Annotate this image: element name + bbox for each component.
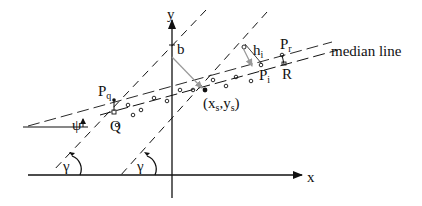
Pq-label: Pq (98, 83, 111, 101)
centroid-close: ) (235, 95, 240, 112)
centroid-point (203, 88, 208, 93)
hi-label: hi (253, 42, 264, 60)
centroid-label: (xs,ys) (203, 95, 240, 113)
R-label: R (282, 66, 292, 82)
Pr-label: Pr (280, 36, 292, 54)
intercept-perpendicular (172, 57, 202, 88)
Pq-main: P (98, 83, 106, 99)
gamma-arrowhead-right (144, 152, 150, 156)
gamma-label-right: γ (136, 158, 144, 174)
Pi-sub: i (267, 74, 270, 85)
centroid-y: ,y (219, 95, 231, 111)
Pr-sub: r (288, 43, 292, 54)
b-label: b (177, 41, 185, 57)
gamma-arc-left (72, 156, 81, 175)
Pi-main: P (259, 67, 267, 83)
median-line-diagram: x y b ψ γ γ (xs,ys) (0, 0, 422, 206)
Pi-label: Pi (259, 67, 270, 85)
y-axis-label: y (167, 6, 175, 22)
median-line-label: median line (331, 43, 402, 59)
x-axis-label: x (307, 169, 315, 185)
Pr-main: P (280, 36, 288, 52)
hi-sub: i (261, 49, 264, 60)
Pq-sub: q (106, 90, 111, 101)
centroid-x-open: (x (203, 95, 216, 112)
gamma-arc-right (147, 156, 156, 175)
gamma-arrowhead-left (69, 152, 75, 156)
Q-label: Q (110, 118, 121, 134)
gamma-label-left: γ (62, 158, 70, 174)
gamma-line-right (120, 12, 267, 176)
gamma-line-left (52, 10, 206, 172)
psi-label: ψ (72, 117, 82, 133)
